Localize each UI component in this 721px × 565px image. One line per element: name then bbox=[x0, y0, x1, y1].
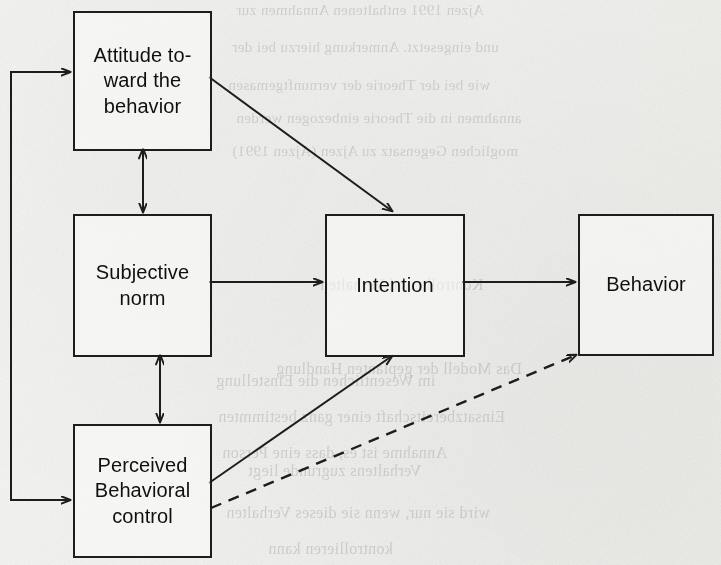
node-attitude-line3: behavior bbox=[88, 94, 198, 120]
node-pbc-line1: Perceived bbox=[89, 453, 197, 479]
edge-pbc-attitude-bracket bbox=[11, 72, 70, 500]
node-norm-line2: norm bbox=[90, 286, 195, 312]
node-pbc-line2: Behavioral bbox=[89, 478, 197, 504]
node-attitude[interactable]: Attitude to- ward the behavior bbox=[73, 11, 212, 151]
edge-attitude-intention bbox=[209, 77, 392, 211]
node-norm-line1: Subjective bbox=[90, 260, 195, 286]
edge-pbc-intention bbox=[209, 356, 392, 483]
node-attitude-line2: ward the bbox=[88, 68, 198, 94]
node-pbc-line3: control bbox=[89, 504, 197, 530]
node-subjective-norm[interactable]: Subjective norm bbox=[73, 214, 212, 357]
node-intention-label: Intention bbox=[350, 273, 440, 299]
node-attitude-line1: Attitude to- bbox=[88, 43, 198, 69]
edge-pbc-behavior-dashed bbox=[211, 355, 576, 508]
node-behavior[interactable]: Behavior bbox=[578, 214, 714, 356]
node-intention[interactable]: Intention bbox=[325, 214, 465, 357]
node-behavior-label: Behavior bbox=[600, 272, 692, 298]
node-perceived-behavioral-control[interactable]: Perceived Behavioral control bbox=[73, 424, 212, 558]
